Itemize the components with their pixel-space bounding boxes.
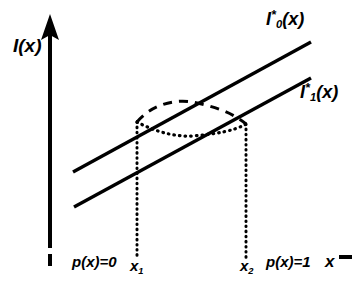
curve-label-i0-star: I*0(x) [266,10,304,28]
region-label-p0: p(x)=0 [72,254,117,269]
x-axis-arrow-stub [339,255,352,259]
intensity-axis [41,14,59,266]
tick-label-x2-subscript: 2 [248,266,253,276]
curve-label-i1-star: I*1(x) [300,83,338,101]
tick-label-x1-subscript: 1 [138,266,143,276]
line-i0-star [73,42,311,172]
region-label-p1: p(x)=1 [266,254,311,269]
x-axis-label: x [325,253,334,270]
diagram-svg [0,0,363,283]
curve-label-i0-arg: (x) [282,9,304,29]
y-axis-label: I(x) [13,36,42,55]
curve-label-i1-arg: (x) [316,82,338,102]
tick-label-x2: x2 [240,258,254,273]
figure-canvas: I(x) I*0(x) I*1(x) p(x)=0 x1 x2 p(x)=1 x [0,0,363,283]
curve-label-i0-subscript: 0 [276,18,282,30]
line-i1-star [74,78,311,207]
curve-label-i1-subscript: 1 [310,91,316,103]
tick-label-x1: x1 [130,258,144,273]
